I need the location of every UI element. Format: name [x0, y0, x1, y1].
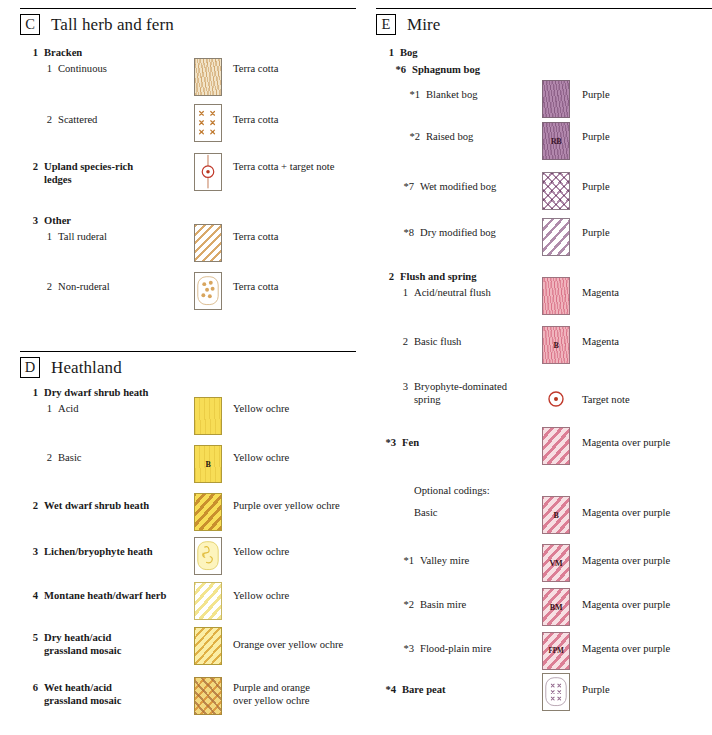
- row-label: Bracken: [44, 46, 82, 59]
- row-number: *3: [400, 642, 414, 655]
- row-description: Terra cotta: [233, 230, 278, 243]
- row-description: Yellow ochre: [233, 402, 289, 415]
- legend-column-right: E Mire 1 Bog *6 Sphagnum bog *1 Blanket …: [364, 0, 712, 735]
- swatch-solid-ochre-B: B: [194, 445, 222, 483]
- row-label: Scattered: [58, 113, 97, 126]
- section-E: E Mire 1 Bog *6 Sphagnum bog *1 Blanket …: [364, 8, 712, 728]
- row-label: Flush and spring: [400, 270, 477, 283]
- section-C-header: C Tall herb and fern: [20, 14, 174, 35]
- row-label: Basic: [58, 451, 82, 464]
- row-number: 6: [30, 681, 38, 694]
- row-description: Purple: [582, 88, 610, 101]
- row-description: Target note: [582, 393, 630, 406]
- row-label: Upland species-rich ledges: [44, 160, 189, 186]
- row-description: Yellow ochre: [233, 451, 289, 464]
- section-letter: D: [20, 357, 40, 378]
- row-label: Dry heath/acid grassland mosaic: [44, 631, 189, 657]
- row-number: 3: [30, 545, 38, 558]
- swatch-diagonal-purple: [542, 218, 570, 256]
- row-label: Bare peat: [402, 683, 446, 696]
- row-description: Purple over yellow ochre: [233, 499, 340, 512]
- row-label: Acid: [58, 402, 79, 415]
- row-label: Flood-plain mire: [420, 642, 492, 655]
- swatch-code: FPM: [543, 633, 569, 669]
- swatch-diagonal-magenta-purple: [542, 427, 570, 465]
- legend-page: C Tall herb and fern 1 Bracken 1 Continu…: [0, 0, 712, 735]
- row-number: 5: [30, 631, 38, 644]
- target-note-icon: [195, 154, 221, 189]
- swatch-diagonal-purple-on-ochre: [194, 493, 222, 531]
- swatch-crosses-purple-rounded: [542, 673, 570, 711]
- row-label: Raised bog: [426, 130, 473, 143]
- swatch-solid-ochre: [194, 397, 222, 435]
- swatch-crosshatch-purple-orange-ochre: [194, 677, 222, 715]
- swatch-diagonal-terracotta: [194, 224, 222, 262]
- row-number: *7: [400, 180, 414, 193]
- row-number: *1: [406, 88, 420, 101]
- row-number: 2: [44, 113, 52, 126]
- row-description: Magenta over purple: [582, 506, 670, 519]
- swatch-stipple-purple: [542, 80, 570, 118]
- swatch-stipple-magenta-B: B: [542, 326, 570, 364]
- row-number: 1: [30, 386, 38, 399]
- swatch-code: RB: [543, 123, 569, 159]
- row-label: Wet heath/acid grassland mosaic: [44, 681, 189, 707]
- row-description: Terra cotta + target note: [233, 160, 335, 173]
- swatch-diagonal-magenta-purple-BM: BM: [542, 588, 570, 626]
- swatch-stipple-purple-RB: RB: [542, 122, 570, 160]
- cross-pattern-icon: [195, 105, 221, 140]
- row-description: Magenta: [582, 286, 619, 299]
- row-number: *4: [382, 683, 396, 696]
- row-label: Dry dwarf shrub heath: [44, 386, 148, 399]
- row-number: 1: [44, 402, 52, 415]
- row-number: *6: [392, 63, 406, 76]
- row-description: Terra cotta: [233, 62, 278, 75]
- swatch-code: B: [543, 497, 569, 533]
- row-number: 1: [30, 46, 38, 59]
- swatch-stipple-terracotta: [194, 58, 222, 96]
- row-number: *8: [400, 226, 414, 239]
- row-number: 1: [44, 230, 52, 243]
- swatch-code: B: [195, 446, 221, 482]
- row-description: Purple: [582, 180, 610, 193]
- swatch-code: B: [543, 327, 569, 363]
- swatch-diagonal-orange-on-ochre: [194, 627, 222, 665]
- swatch-target-note-only: [542, 385, 570, 423]
- section-rule: [376, 8, 712, 9]
- swatch-diagonal-magenta-purple-FPM: FPM: [542, 632, 570, 670]
- row-label: Optional codings:: [414, 484, 490, 497]
- row-number: 1: [400, 286, 408, 299]
- row-description: Terra cotta: [233, 280, 278, 293]
- row-label: Sphagnum bog: [412, 63, 480, 76]
- swatch-target-note-terracotta: [194, 153, 222, 191]
- row-description: Yellow ochre: [233, 545, 289, 558]
- row-label: Basic flush: [414, 335, 461, 348]
- row-number: *2: [400, 598, 414, 611]
- row-label: Dry modified bog: [420, 226, 496, 239]
- swatch-dots-terracotta: [194, 272, 222, 310]
- row-number: 2: [30, 160, 38, 173]
- section-rule: [20, 351, 356, 352]
- section-E-header: E Mire: [376, 14, 440, 35]
- row-number: *2: [406, 130, 420, 143]
- row-description: Magenta over purple: [582, 436, 670, 449]
- row-number: 2: [386, 270, 394, 283]
- swatch-diagonal-light-ochre: [194, 582, 222, 620]
- row-description: Purple and orange over yellow ochre: [233, 681, 310, 707]
- row-description: Magenta: [582, 335, 619, 348]
- row-number: 2: [400, 335, 408, 348]
- row-label: Montane heath/dwarf herb: [44, 589, 166, 602]
- row-description: Magenta over purple: [582, 642, 670, 655]
- swatch-crosshatch-purple: [542, 172, 570, 210]
- swatch-code: VM: [543, 545, 569, 581]
- row-label: Acid/neutral flush: [414, 286, 491, 299]
- row-description: Yellow ochre: [233, 589, 289, 602]
- row-number: 4: [30, 589, 38, 602]
- legend-column-left: C Tall herb and fern 1 Bracken 1 Continu…: [8, 0, 360, 735]
- row-label: Basic: [414, 506, 438, 519]
- row-label: Valley mire: [420, 554, 469, 567]
- row-label: Blanket bog: [426, 88, 478, 101]
- row-number: 3: [30, 214, 38, 227]
- row-label: Bog: [400, 46, 418, 59]
- row-description: Purple: [582, 130, 610, 143]
